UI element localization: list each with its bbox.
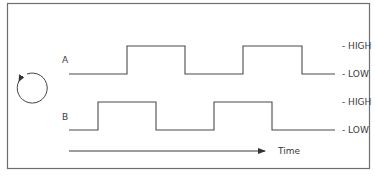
signal-a-label: A <box>62 55 68 65</box>
counterclockwise-rotation-icon <box>17 73 47 103</box>
signal-b-low-label: - LOW <box>342 125 369 135</box>
diagram-border <box>8 4 370 169</box>
signal-b-label: B <box>62 112 68 122</box>
time-axis-label: Time <box>278 146 300 156</box>
signal-a-low-label: - LOW <box>342 69 369 79</box>
signal-b-waveform <box>69 102 335 130</box>
signal-b-high-label: - HIGH <box>342 97 371 107</box>
signal-a-high-label: - HIGH <box>342 41 371 51</box>
quadrature-diagram <box>0 0 375 178</box>
signal-a-waveform <box>69 46 335 74</box>
